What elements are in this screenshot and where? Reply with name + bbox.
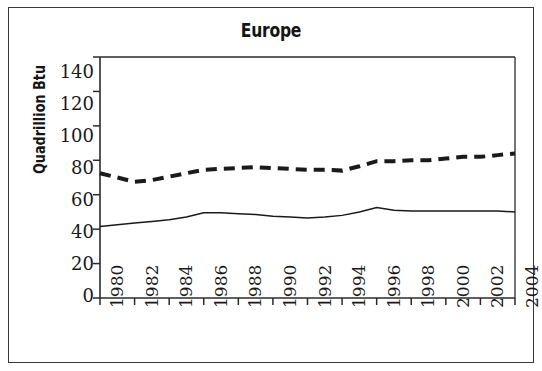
chart-figure: Europe Quadrillion Btu 140 120 100 80 60…	[0, 0, 542, 371]
y-tick-marks	[93, 57, 100, 298]
x-tick-marks	[100, 298, 515, 305]
plot-area	[0, 0, 542, 371]
series-line-consumption	[100, 153, 515, 181]
data-series-group	[100, 153, 515, 226]
series-line-production	[100, 208, 515, 227]
